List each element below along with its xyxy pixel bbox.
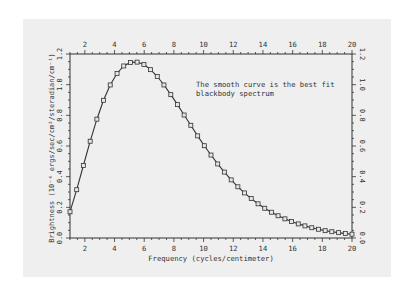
x-tick-label-top: 20 bbox=[348, 40, 357, 49]
data-point-marker bbox=[202, 144, 206, 148]
x-tick-label-bottom: 18 bbox=[318, 244, 327, 253]
x-tick-label-top: 8 bbox=[172, 40, 176, 49]
x-tick-label-bottom: 4 bbox=[112, 244, 116, 253]
data-point-marker bbox=[142, 63, 146, 67]
data-point-marker bbox=[216, 162, 220, 166]
data-point-marker bbox=[68, 210, 72, 214]
x-tick-label-bottom: 2 bbox=[83, 244, 87, 253]
data-point-marker bbox=[323, 229, 327, 233]
data-point-marker bbox=[81, 163, 85, 167]
data-point-marker bbox=[330, 230, 334, 234]
y-tick-label-right: 0.2 bbox=[358, 201, 366, 214]
data-point-marker bbox=[243, 191, 247, 195]
data-point-marker bbox=[169, 93, 173, 97]
data-point-marker bbox=[162, 83, 166, 87]
y-tick-label-left: 0.0 bbox=[56, 232, 64, 245]
data-point-marker bbox=[283, 217, 287, 221]
data-point-marker bbox=[149, 68, 153, 72]
data-point-marker bbox=[128, 60, 132, 64]
x-tick-label-top: 14 bbox=[259, 40, 268, 49]
x-tick-label-top: 12 bbox=[229, 40, 238, 49]
data-point-marker bbox=[263, 206, 267, 210]
data-point-marker bbox=[310, 226, 314, 230]
y-tick-label-right: 0.6 bbox=[358, 140, 366, 153]
data-point-marker bbox=[269, 210, 273, 214]
x-tick-label-bottom: 20 bbox=[348, 244, 357, 253]
blackbody-spectrum-chart: 224466881010121214141616181820200.00.00.… bbox=[0, 0, 414, 295]
x-tick-label-bottom: 6 bbox=[142, 244, 146, 253]
x-tick-label-top: 2 bbox=[83, 40, 87, 49]
data-point-marker bbox=[102, 98, 106, 102]
y-tick-label-left: 1.0 bbox=[56, 78, 64, 91]
data-point-marker bbox=[95, 117, 99, 121]
y-tick-label-right: 0.4 bbox=[358, 170, 366, 183]
y-tick-label-right: 1.2 bbox=[358, 48, 366, 61]
data-point-marker bbox=[316, 227, 320, 231]
data-point-marker bbox=[343, 232, 347, 236]
y-axis-label: Brightness (10⁻⁴ ergs/sec/cm²/steradian/… bbox=[48, 53, 56, 243]
data-point-marker bbox=[175, 103, 179, 107]
data-point-marker bbox=[290, 220, 294, 224]
x-tick-label-top: 16 bbox=[288, 40, 297, 49]
data-point-marker bbox=[296, 222, 300, 226]
y-tick-label-left: 0.6 bbox=[56, 140, 64, 153]
y-tick-label-left: 0.4 bbox=[56, 170, 64, 183]
x-tick-label-bottom: 14 bbox=[259, 244, 268, 253]
data-point-marker bbox=[189, 123, 193, 127]
y-tick-label-right: 0.0 bbox=[358, 232, 366, 245]
data-point-marker bbox=[88, 139, 92, 143]
data-point-marker bbox=[256, 202, 260, 206]
y-tick-label-left: 0.2 bbox=[56, 201, 64, 214]
data-point-marker bbox=[135, 60, 139, 64]
x-tick-label-bottom: 12 bbox=[229, 244, 238, 253]
y-tick-label-right: 0.8 bbox=[358, 109, 366, 122]
data-point-marker bbox=[222, 170, 226, 174]
data-point-marker bbox=[337, 231, 341, 235]
data-point-marker bbox=[155, 75, 159, 79]
x-tick-label-top: 4 bbox=[112, 40, 116, 49]
x-tick-label-top: 18 bbox=[318, 40, 327, 49]
data-point-marker bbox=[276, 214, 280, 218]
tick-labels: 224466881010121214141616181820200.00.00.… bbox=[56, 40, 366, 253]
y-tick-label-left: 1.2 bbox=[56, 48, 64, 61]
data-point-marker bbox=[122, 64, 126, 68]
x-tick-label-bottom: 10 bbox=[199, 244, 208, 253]
x-tick-label-top: 6 bbox=[142, 40, 146, 49]
data-point-marker bbox=[115, 71, 119, 75]
y-tick-label-left: 0.8 bbox=[56, 109, 64, 122]
annotation-line-1: The smooth curve is the best fit bbox=[196, 80, 334, 89]
data-point-marker bbox=[75, 188, 79, 192]
y-tick-label-right: 1.0 bbox=[358, 78, 366, 91]
data-point-marker bbox=[108, 83, 112, 87]
data-point-marker bbox=[229, 178, 233, 182]
x-tick-label-bottom: 16 bbox=[288, 244, 297, 253]
annotation-line-2: blackbody spectrum bbox=[196, 89, 274, 98]
data-point-marker bbox=[182, 113, 186, 117]
axis-ticks bbox=[66, 50, 356, 242]
data-point-marker bbox=[350, 232, 354, 236]
data-point-marker bbox=[249, 197, 253, 201]
x-axis-label: Frequency (cycles/centimeter) bbox=[148, 254, 274, 263]
x-tick-label-bottom: 8 bbox=[172, 244, 176, 253]
data-point-marker bbox=[196, 134, 200, 138]
x-tick-label-top: 10 bbox=[199, 40, 208, 49]
data-point-marker bbox=[236, 185, 240, 189]
data-point-marker bbox=[209, 153, 213, 157]
data-point-marker bbox=[303, 224, 307, 228]
